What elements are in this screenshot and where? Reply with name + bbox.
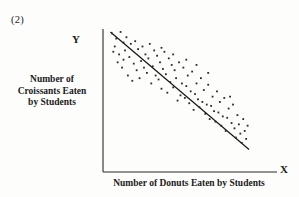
data-point <box>185 59 187 61</box>
data-point <box>226 117 228 119</box>
data-point <box>232 104 234 106</box>
data-point <box>161 88 163 90</box>
data-point <box>161 47 163 49</box>
data-points-group <box>111 31 249 144</box>
data-point <box>213 110 215 112</box>
data-point <box>245 138 247 140</box>
data-point <box>241 142 243 144</box>
data-point <box>229 96 231 98</box>
data-point <box>182 67 184 69</box>
data-point <box>196 83 198 85</box>
data-point <box>150 83 152 85</box>
data-point <box>234 127 236 129</box>
data-point <box>207 72 209 74</box>
data-point <box>136 69 138 71</box>
data-point <box>137 48 139 50</box>
data-point <box>180 94 182 96</box>
data-point <box>118 54 120 56</box>
data-point <box>140 60 142 62</box>
data-point <box>143 67 145 69</box>
data-point <box>177 100 179 102</box>
data-point <box>168 57 170 59</box>
data-point <box>185 85 187 87</box>
data-point <box>235 137 237 139</box>
data-point <box>146 72 148 74</box>
data-point <box>120 31 122 33</box>
data-point <box>191 71 193 73</box>
data-point <box>115 38 117 40</box>
data-point <box>159 61 161 63</box>
data-point <box>126 36 128 38</box>
data-point <box>153 50 155 52</box>
figure-container: (2) Number of Croissants Eaten by Studen… <box>0 0 299 197</box>
data-point <box>209 118 211 120</box>
data-point <box>220 125 222 127</box>
data-point <box>123 59 125 61</box>
data-point <box>149 43 151 45</box>
data-point <box>247 125 249 127</box>
data-point <box>239 133 241 135</box>
data-point <box>203 89 205 91</box>
data-point <box>200 77 202 79</box>
data-point <box>181 83 183 85</box>
data-point <box>188 102 190 104</box>
data-point <box>121 67 123 69</box>
data-point <box>134 40 136 42</box>
data-point <box>244 130 246 132</box>
data-point <box>197 98 199 100</box>
data-point <box>204 113 206 115</box>
data-point <box>190 90 192 92</box>
data-point <box>152 65 154 67</box>
data-point <box>172 87 174 89</box>
regression-line <box>110 32 249 149</box>
data-point <box>178 61 180 63</box>
data-point <box>194 93 196 95</box>
data-point <box>127 75 129 77</box>
data-point <box>172 54 174 56</box>
data-point <box>130 43 132 45</box>
data-point <box>210 105 212 107</box>
scatter-plot <box>0 0 299 197</box>
data-point <box>165 73 167 75</box>
data-point <box>207 84 209 86</box>
data-point <box>206 104 208 106</box>
data-point <box>147 57 149 59</box>
data-point <box>187 75 189 77</box>
data-point <box>171 64 173 66</box>
data-point <box>124 50 126 52</box>
data-point <box>133 63 135 65</box>
data-point <box>114 46 116 48</box>
data-point <box>223 97 225 99</box>
data-point <box>156 55 158 57</box>
data-point <box>228 108 230 110</box>
data-point <box>162 68 164 70</box>
data-point <box>131 80 133 82</box>
data-point <box>164 51 166 53</box>
data-point <box>222 116 224 118</box>
data-point <box>237 114 239 116</box>
data-point <box>212 96 214 98</box>
data-point <box>193 109 195 111</box>
data-point <box>218 112 220 114</box>
data-point <box>174 69 176 71</box>
data-point <box>117 61 119 63</box>
data-point <box>112 51 114 53</box>
data-point <box>175 77 177 79</box>
data-point <box>201 101 203 103</box>
data-point <box>123 42 125 44</box>
data-point <box>231 122 233 124</box>
data-point <box>166 92 168 94</box>
data-point <box>242 118 244 120</box>
data-point <box>216 90 218 92</box>
data-point <box>184 97 186 99</box>
data-point <box>199 106 201 108</box>
data-point <box>142 46 144 48</box>
data-point <box>219 101 221 103</box>
data-point <box>196 64 198 66</box>
data-point <box>155 75 157 77</box>
data-point <box>139 77 141 79</box>
data-point <box>128 56 130 58</box>
data-point <box>158 79 160 81</box>
data-point <box>238 123 240 125</box>
data-point <box>145 54 147 56</box>
